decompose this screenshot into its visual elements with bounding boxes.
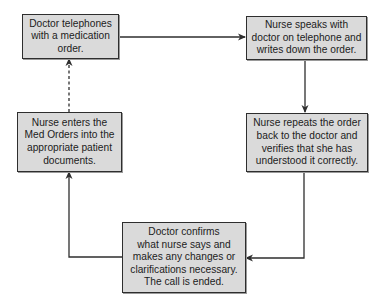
arrow-nurse-repeats-to-doctor-confirms — [246, 172, 304, 258]
node-text-line: Nurse repeats the order — [253, 117, 361, 130]
node-text-line: understood it correctly. — [253, 155, 361, 168]
node-text-line: The call is ended. — [130, 276, 237, 289]
node-text-line: with a medication — [29, 30, 112, 43]
node-text-line: back to the doctor and — [253, 130, 361, 143]
node-doctor-confirms: Doctor confirms what nurse says and make… — [122, 222, 246, 293]
node-doctor-calls: Doctor telephones with a medication orde… — [22, 14, 119, 59]
node-text-line: Doctor telephones — [29, 18, 112, 31]
node-nurse-writes: Nurse speaks with doctor on telephone an… — [246, 16, 367, 60]
node-nurse-enters: Nurse enters the Med Orders into the app… — [17, 112, 122, 172]
node-text-line: order. — [29, 43, 112, 56]
node-text-line: doctor on telephone and — [252, 32, 362, 45]
arrow-doctor-confirms-to-nurse-enters — [69, 172, 122, 257]
node-text-line: what nurse says and — [130, 239, 237, 252]
node-nurse-repeats: Nurse repeats the order back to the doct… — [246, 113, 368, 172]
node-text-line: documents. — [24, 155, 114, 168]
node-text-line: Nurse speaks with — [252, 19, 362, 32]
node-text-line: verifies that she has — [253, 143, 361, 156]
node-text-line: clarifications necessary. — [130, 264, 237, 277]
node-text-line: appropriate patient — [24, 142, 114, 155]
node-text-line: Nurse enters the — [24, 117, 114, 130]
node-text-line: Doctor confirms — [130, 226, 237, 239]
node-text-line: Med Orders into the — [24, 129, 114, 142]
node-text-line: writes down the order. — [252, 44, 362, 57]
flowchart-canvas: Doctor telephones with a medication orde… — [0, 0, 384, 308]
node-text-line: makes any changes or — [130, 251, 237, 264]
